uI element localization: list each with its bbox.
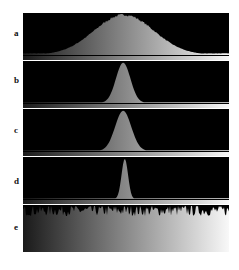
panel-label-d: d: [14, 176, 19, 186]
intensity-ramp-bar-b: [23, 104, 229, 108]
intensity-ramp-bar-a: [23, 56, 229, 60]
intensity-ramp-bar-d: [23, 200, 229, 204]
panel-label-b: b: [14, 75, 19, 85]
panel-label-a: a: [14, 28, 19, 38]
histogram-figure: [0, 0, 239, 270]
panel-label-e: e: [14, 222, 18, 232]
intensity-ramp-bar-c: [23, 152, 229, 156]
panel-label-c: c: [14, 125, 18, 135]
